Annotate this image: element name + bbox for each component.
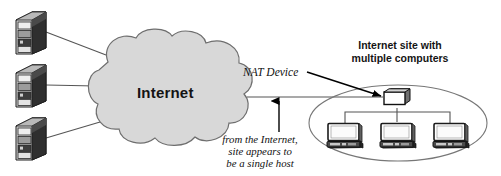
link-server-top-cloud — [46, 32, 106, 55]
site-title-line2: multiple computers — [330, 52, 470, 64]
nat-device-icon — [384, 89, 410, 105]
lan-links — [345, 108, 450, 123]
server-top-icon — [16, 12, 46, 54]
server-icons — [16, 12, 46, 160]
lan-branch-right — [397, 112, 450, 123]
workstation-icons — [327, 124, 469, 149]
internet-cloud-label: Internet — [137, 84, 194, 102]
workstation-center-icon — [380, 124, 416, 149]
site-title-line1: Internet site with — [330, 39, 470, 51]
server-middle-icon — [16, 65, 46, 107]
note-line2: site appears to — [205, 145, 315, 158]
nat-device-label: NAT Device — [243, 66, 298, 80]
workstation-left-icon — [327, 124, 363, 149]
note-line1: from the Internet, — [205, 133, 315, 146]
lan-branch-left — [345, 112, 397, 123]
server-bottom-icon — [16, 118, 46, 160]
nat-network-diagram: Internet Internet site with multiple com… — [0, 0, 501, 176]
link-server-bottom-cloud — [46, 122, 100, 138]
note-line3: be a single host — [205, 157, 315, 170]
workstation-right-icon — [433, 124, 469, 149]
